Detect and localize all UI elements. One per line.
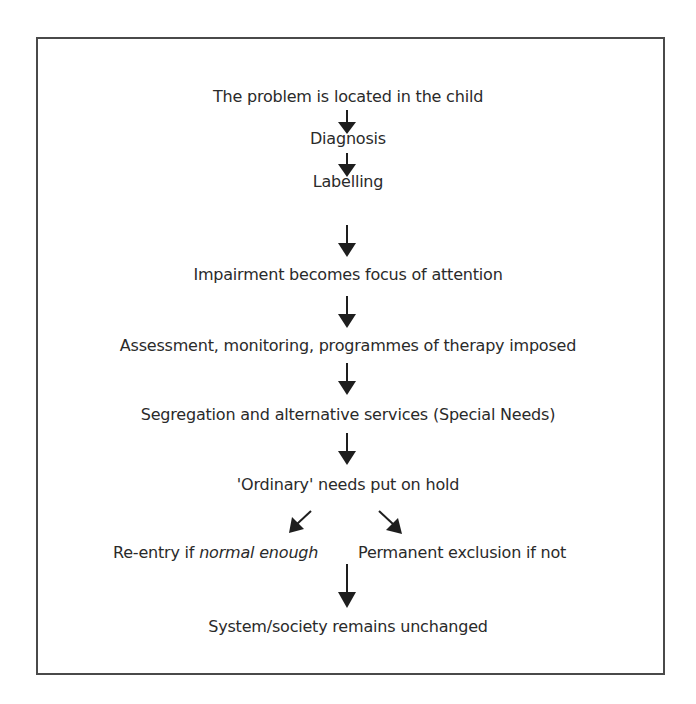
node-diagnosis: Diagnosis xyxy=(0,129,696,149)
node-permanent-exclusion: Permanent exclusion if not xyxy=(358,543,566,563)
node-assessment-therapy: Assessment, monitoring, programmes of th… xyxy=(0,336,696,356)
node-problem-located-in-child: The problem is located in the child xyxy=(0,87,696,107)
re-entry-emphasis: normal enough xyxy=(199,543,318,562)
node-re-entry: Re-entry if normal enough xyxy=(113,543,318,563)
node-ordinary-needs-on-hold: 'Ordinary' needs put on hold xyxy=(0,475,696,495)
node-system-unchanged: System/society remains unchanged xyxy=(0,617,696,637)
node-labelling: Labelling xyxy=(0,172,696,192)
node-segregation-special-needs: Segregation and alternative services (Sp… xyxy=(0,405,696,425)
node-impairment-focus: Impairment becomes focus of attention xyxy=(0,265,696,285)
re-entry-prefix: Re-entry if xyxy=(113,543,199,562)
